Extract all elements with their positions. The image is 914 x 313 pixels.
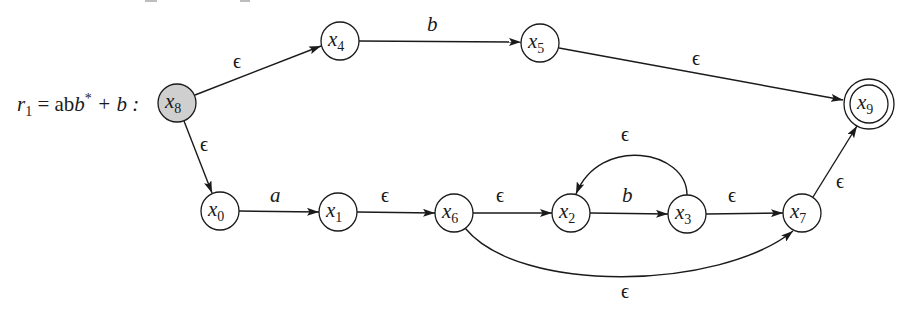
edge-label-x7-x9: ϵ [836, 170, 844, 192]
edge-label-x6-x7: ϵ [621, 280, 629, 302]
edge-label-x6-x2: ϵ [496, 184, 504, 206]
edge-x2-x3 [590, 213, 668, 214]
edge-x6-x7 [465, 228, 793, 277]
state-x1: x1 [319, 193, 357, 231]
edge-label-x3-x7: ϵ [728, 184, 736, 206]
cropped-text-fragment [145, 0, 250, 2]
expression-label: r1 = abb* + b : [17, 91, 139, 119]
state-x6: x6 [435, 194, 473, 232]
edge-x5-x9 [559, 48, 843, 100]
edge-label-x5-x9: ϵ [692, 47, 700, 69]
edge-x3-x7 [706, 213, 783, 214]
state-x5: x5 [521, 24, 559, 62]
edge-x8-x0 [184, 121, 212, 193]
edge-label-x8-x4: ϵ [233, 50, 241, 72]
edge-x7-x9 [813, 126, 857, 197]
edge-x8-x4 [195, 46, 321, 95]
edge-x1-x6 [357, 212, 435, 213]
edge-label-x1-x6: ϵ [381, 184, 389, 206]
edges: ϵ b ϵ ϵ a ϵ ϵ b ϵ ϵ ϵ ϵ [184, 12, 857, 302]
state-x7: x7 [783, 194, 821, 232]
edge-x0-x1 [239, 211, 319, 212]
edge-label-x4-x5: b [427, 12, 438, 36]
state-x8: x8 [158, 84, 196, 122]
state-x0: x0 [201, 192, 239, 230]
edge-label-x2-x3: b [622, 183, 633, 207]
nfa-diagram: r1 = abb* + b : ϵ b ϵ ϵ a ϵ ϵ b ϵ ϵ [0, 0, 914, 313]
state-x9-accept: x9 [844, 79, 894, 129]
edge-label-x0-x1: a [270, 183, 281, 207]
edge-x4-x5 [359, 41, 521, 42]
edge-label-x8-x0: ϵ [200, 133, 208, 155]
edge-label-x3-x2: ϵ [621, 123, 629, 145]
state-x2: x2 [552, 194, 590, 232]
state-x3: x3 [668, 195, 706, 233]
state-x4: x4 [321, 22, 359, 60]
